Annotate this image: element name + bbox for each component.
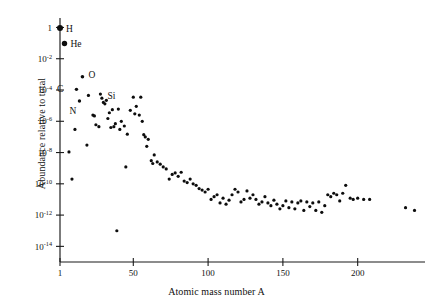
data-point bbox=[356, 197, 359, 200]
element-label: O bbox=[88, 70, 95, 80]
data-point bbox=[242, 198, 245, 201]
data-point bbox=[299, 199, 302, 202]
data-point bbox=[287, 206, 290, 209]
data-point bbox=[218, 201, 221, 204]
data-point bbox=[212, 195, 215, 198]
data-point bbox=[254, 198, 257, 201]
data-point bbox=[260, 200, 263, 203]
data-point bbox=[126, 133, 129, 136]
data-point bbox=[352, 198, 355, 201]
data-point bbox=[302, 209, 305, 212]
data-point bbox=[311, 201, 314, 204]
data-point bbox=[227, 199, 230, 202]
data-point bbox=[305, 200, 308, 203]
data-point bbox=[269, 204, 272, 207]
data-point bbox=[236, 190, 239, 193]
data-point bbox=[320, 211, 323, 214]
data-point bbox=[332, 192, 335, 195]
data-point bbox=[192, 182, 195, 185]
data-point bbox=[204, 190, 207, 193]
data-point bbox=[275, 203, 278, 206]
data-point bbox=[329, 195, 332, 198]
data-point bbox=[114, 122, 117, 125]
data-point bbox=[75, 88, 78, 91]
data-point bbox=[189, 178, 192, 181]
data-point bbox=[124, 165, 127, 168]
data-point bbox=[293, 207, 296, 210]
data-point bbox=[87, 94, 90, 97]
data-point bbox=[335, 193, 338, 196]
data-point bbox=[120, 120, 123, 123]
data-point bbox=[296, 201, 299, 204]
data-point bbox=[344, 184, 347, 187]
data-point bbox=[78, 99, 81, 102]
data-point bbox=[132, 96, 135, 99]
data-point bbox=[62, 41, 67, 46]
data-point bbox=[168, 178, 171, 181]
element-label: C bbox=[57, 84, 63, 94]
data-point bbox=[97, 125, 100, 128]
data-point bbox=[162, 165, 165, 168]
x-axis-tick-label: 200 bbox=[351, 268, 365, 278]
scatter-plot-canvas: 110-210-410-610-810-1010-1210-1415010015… bbox=[0, 0, 433, 306]
data-point bbox=[263, 195, 266, 198]
data-point bbox=[290, 200, 293, 203]
data-point bbox=[117, 108, 120, 111]
data-point bbox=[85, 143, 88, 146]
data-point bbox=[129, 109, 132, 112]
data-point bbox=[106, 117, 109, 120]
data-point bbox=[73, 128, 76, 131]
element-label: Si bbox=[107, 91, 115, 101]
data-point bbox=[70, 178, 73, 181]
data-point bbox=[156, 160, 159, 163]
data-point bbox=[209, 198, 212, 201]
data-point bbox=[151, 162, 154, 165]
data-point bbox=[177, 175, 180, 178]
data-point bbox=[147, 138, 150, 141]
data-point bbox=[144, 135, 147, 138]
element-label: He bbox=[70, 39, 81, 49]
data-point bbox=[94, 123, 97, 126]
data-point bbox=[195, 184, 198, 187]
data-point bbox=[112, 125, 115, 128]
data-point bbox=[257, 203, 260, 206]
data-point bbox=[323, 204, 326, 207]
data-point bbox=[239, 200, 242, 203]
data-point bbox=[186, 181, 189, 184]
data-point bbox=[215, 193, 218, 196]
data-point bbox=[198, 187, 201, 190]
data-point bbox=[362, 198, 365, 201]
data-point bbox=[326, 193, 329, 196]
data-point bbox=[145, 145, 148, 148]
data-point bbox=[153, 153, 156, 156]
data-point bbox=[81, 75, 85, 79]
data-point bbox=[133, 112, 136, 115]
data-point bbox=[115, 229, 118, 232]
data-point bbox=[171, 173, 174, 176]
x-axis-title: Atomic mass number A bbox=[0, 286, 433, 297]
data-point bbox=[368, 198, 371, 201]
data-point bbox=[111, 108, 114, 111]
element-label: N bbox=[70, 106, 77, 116]
data-point bbox=[135, 105, 138, 108]
data-point bbox=[314, 209, 317, 212]
data-point bbox=[224, 203, 227, 206]
data-point bbox=[281, 204, 284, 207]
data-point bbox=[206, 188, 209, 191]
data-point bbox=[266, 201, 269, 204]
data-point bbox=[201, 188, 204, 191]
data-point bbox=[165, 167, 168, 170]
data-point bbox=[248, 197, 251, 200]
data-point bbox=[109, 126, 112, 129]
y-axis-title: Abundance relative to total bbox=[36, 49, 47, 219]
data-point bbox=[138, 113, 141, 116]
data-point bbox=[404, 206, 407, 209]
data-point bbox=[317, 200, 320, 203]
x-axis-tick-label: 50 bbox=[129, 268, 139, 278]
data-point bbox=[180, 171, 183, 174]
data-point bbox=[100, 97, 103, 100]
data-point bbox=[67, 150, 70, 153]
data-point bbox=[183, 179, 186, 182]
data-point bbox=[308, 205, 311, 208]
data-point bbox=[413, 209, 416, 212]
